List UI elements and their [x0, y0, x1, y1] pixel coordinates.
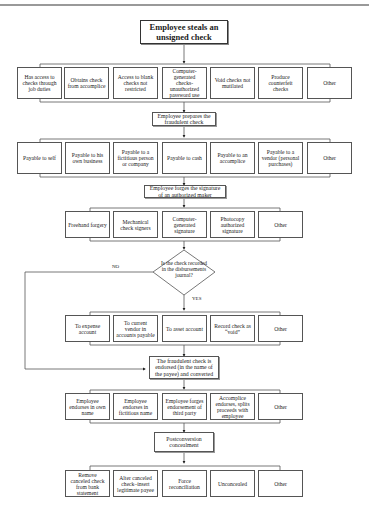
- row1-option: Obtains check from accomplice: [64, 67, 109, 99]
- step-postconversion-concealment: Postconversion concealment: [154, 432, 214, 452]
- row4-option: Record check as “void”: [210, 315, 255, 342]
- row3-option: Mechanical check signers: [113, 211, 158, 238]
- row2-option: Payable to a vendor (personal purchases): [258, 142, 303, 174]
- row1-option: Computer-generated checks-unauthorized p…: [162, 67, 207, 99]
- row2-option: Payable to cash: [162, 142, 207, 174]
- start-node: Employee steals an unsigned check: [140, 20, 228, 44]
- row6-option: Other: [258, 470, 303, 497]
- step-forge-signature: Employee forges the signature of an auth…: [144, 185, 226, 198]
- no-label: NO: [112, 264, 119, 269]
- step-endorse-convert: The fraudulent check is endorsed (in the…: [149, 356, 219, 379]
- yes-label: YES: [192, 296, 201, 301]
- row6-option: Alter canceled check–insert legitimate p…: [113, 470, 158, 497]
- row1-option: Void checks not mutilated: [210, 67, 255, 99]
- row5-option: Employee endorses in own name: [65, 393, 110, 420]
- row1-option: Has access to checks through job duties: [17, 67, 62, 99]
- row2-option: Payable to an accomplice: [210, 142, 255, 174]
- row3-option: Computer-generated signature: [162, 211, 207, 238]
- row6-option: Unconcealed: [210, 470, 255, 497]
- step-prepare-check: Employee prepares the fraudulent check: [152, 112, 216, 126]
- row4-option: Other: [258, 315, 303, 342]
- row5-option: Other: [258, 393, 303, 420]
- row4-option: To asset account: [162, 315, 207, 342]
- row1-option: Access to blank checks not restricted: [113, 67, 158, 99]
- row3-option: Other: [258, 211, 303, 238]
- row5-option: Employee forges endorsement of third par…: [162, 393, 207, 420]
- row1-option: Other: [307, 67, 352, 99]
- row6-option: Force reconciliation: [162, 470, 207, 497]
- row2-option: Other: [307, 142, 352, 174]
- row3-option: Photocopy authorized signature: [210, 211, 255, 238]
- row5-option: Employee endorses in fictitious name: [113, 393, 158, 420]
- decision-recorded-journal: Is the check recorded in the disbursemen…: [160, 261, 208, 278]
- row2-option: Payable to his own business: [65, 142, 110, 174]
- row2-option: Payable to self: [17, 142, 62, 174]
- row1-option: Produce counterfeit checks: [258, 67, 303, 99]
- row5-option: Accomplice endorses, splits proceeds wit…: [210, 393, 255, 420]
- row4-option: To current vendor in accounts payable: [113, 315, 158, 342]
- row2-option: Payable to a fictitious person or compan…: [113, 142, 158, 174]
- row6-option: Remove canceled check from bank statemen…: [65, 470, 110, 497]
- row3-option: Freehand forgery: [65, 211, 110, 238]
- row4-option: To expense account: [65, 315, 110, 342]
